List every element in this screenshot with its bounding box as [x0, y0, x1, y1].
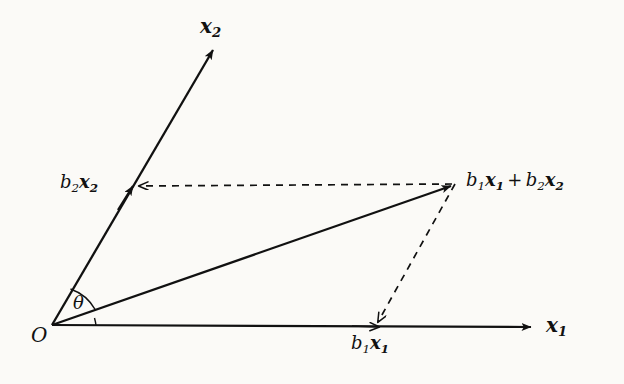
dashed-line-to-b1x1 [378, 184, 455, 322]
label-b2x2: b2x2 [60, 173, 98, 194]
axis-x1-arrow [52, 325, 531, 327]
label-resultant-sum: b1x1+b2x2 [466, 171, 564, 192]
angle-label-theta: θ [73, 294, 84, 312]
b2x2-endpoint-arrow [118, 186, 133, 210]
origin-label: O [31, 325, 47, 345]
dashed-line-to-b2x2 [139, 184, 452, 186]
label-b1x1: b1x1 [351, 334, 389, 355]
resultant-vector-arrow [52, 186, 451, 325]
vector-diagram: x2 x1 O θ b2x2 b1x1 b1x1+b2x2 [0, 0, 624, 384]
axis-label-x1: x1 [546, 315, 567, 338]
axis-label-x2: x2 [200, 16, 221, 39]
b1x1-endpoint-arrow [352, 326, 379, 327]
